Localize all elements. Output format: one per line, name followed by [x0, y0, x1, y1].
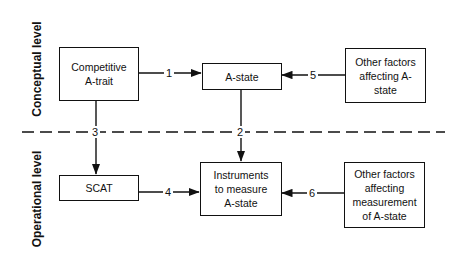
other-factors-a-state-text: Other factors affecting A-state — [350, 55, 421, 97]
link-label-4: 4 — [163, 186, 173, 198]
conceptual-level-label: Conceptual level — [30, 18, 44, 120]
connector-lines — [0, 0, 450, 273]
scat-text: SCAT — [85, 181, 112, 195]
other-factors-measurement-box: Other factors affecting measurement of A… — [344, 162, 425, 228]
link-label-6: 6 — [307, 187, 317, 199]
link-label-3: 3 — [90, 126, 100, 138]
scat-box: SCAT — [59, 175, 139, 201]
instruments-box: Instruments to measure A-state — [200, 162, 282, 216]
a-state-box: A-state — [202, 63, 282, 90]
link-label-5: 5 — [308, 69, 318, 81]
a-state-text: A-state — [225, 70, 258, 84]
competitive-a-trait-box: Competitive A-trait — [59, 47, 139, 101]
other-factors-a-state-box: Other factors affecting A-state — [345, 48, 426, 103]
instruments-text: Instruments to measure A-state — [209, 168, 273, 210]
competitive-a-trait-text: Competitive A-trait — [66, 60, 132, 88]
link-label-1: 1 — [164, 67, 174, 79]
operational-level-label: Operational level — [30, 145, 44, 253]
other-factors-measurement-text: Other factors affecting measurement of A… — [348, 167, 421, 223]
link-label-2: 2 — [235, 126, 245, 138]
